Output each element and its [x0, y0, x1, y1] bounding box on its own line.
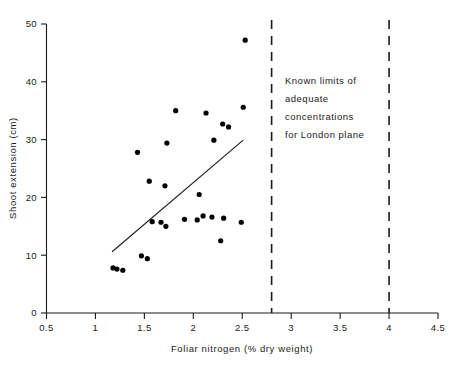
regression-line — [112, 140, 243, 252]
data-point — [120, 268, 125, 273]
x-tick-label: 3.5 — [333, 322, 347, 333]
data-point — [197, 192, 202, 197]
data-point — [135, 150, 140, 155]
data-point — [145, 256, 150, 261]
data-point — [114, 266, 119, 271]
data-point — [226, 124, 231, 129]
data-point — [241, 105, 246, 110]
data-point — [239, 220, 244, 225]
scatter-plot-figure: 01020304050 0.511.522.533.544.5 Known li… — [0, 0, 457, 367]
data-point — [203, 110, 208, 115]
trend-line-group — [112, 140, 243, 252]
annotation-line: adequate — [285, 93, 329, 104]
y-axis-title: Shoot extension (cm) — [7, 117, 18, 219]
data-point — [182, 217, 187, 222]
y-tick-label: 10 — [26, 250, 37, 261]
x-tick-label: 2.5 — [235, 322, 249, 333]
data-point — [173, 108, 178, 113]
annotation-group: Known limits ofadequateconcentrationsfor… — [285, 75, 364, 140]
x-tick-label: 3 — [288, 322, 294, 333]
data-point — [218, 238, 223, 243]
x-tick-label: 2 — [190, 322, 196, 333]
data-point — [195, 217, 200, 222]
data-point — [164, 140, 169, 145]
y-tick-label: 40 — [26, 76, 37, 87]
data-point — [209, 214, 214, 219]
x-tick-label: 4 — [386, 322, 392, 333]
data-point — [201, 213, 206, 218]
data-point — [147, 179, 152, 184]
reference-lines-group — [272, 20, 389, 313]
data-point — [211, 138, 216, 143]
data-point — [150, 219, 155, 224]
data-point — [221, 216, 226, 221]
data-points-group — [110, 38, 247, 273]
data-point — [158, 220, 163, 225]
y-tick-label: 0 — [31, 307, 37, 318]
plot-canvas: 01020304050 0.511.522.533.544.5 Known li… — [0, 0, 457, 367]
data-point — [139, 253, 144, 258]
data-point — [243, 38, 248, 43]
y-axis-ticks: 01020304050 — [26, 18, 47, 318]
x-tick-label: 1.5 — [137, 322, 151, 333]
x-axis-ticks: 0.511.522.533.544.5 — [39, 313, 445, 333]
x-tick-label: 0.5 — [39, 322, 53, 333]
annotation-line: Known limits of — [285, 75, 356, 86]
y-tick-label: 30 — [26, 134, 37, 145]
data-point — [162, 183, 167, 188]
x-axis-title: Foliar nitrogen (% dry weight) — [171, 343, 313, 354]
x-tick-label: 1 — [93, 322, 99, 333]
annotation-line: concentrations — [285, 111, 354, 122]
y-tick-label: 20 — [26, 192, 37, 203]
annotation-line: for London plane — [285, 129, 364, 140]
data-point — [220, 121, 225, 126]
x-tick-label: 4.5 — [431, 322, 445, 333]
y-tick-label: 50 — [26, 18, 37, 29]
axes-group — [47, 24, 439, 313]
data-point — [163, 224, 168, 229]
